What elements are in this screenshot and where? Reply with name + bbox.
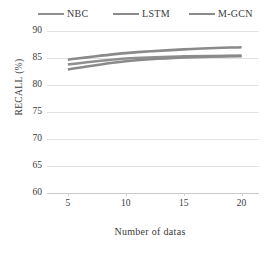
legend-label-mgcn: M-GCN [218, 9, 253, 19]
legend-swatch-nbc [38, 13, 64, 15]
x-axis-line [47, 193, 259, 194]
y-tick-label-70: 70 [16, 134, 42, 144]
legend-label-lstm: LSTM [142, 9, 170, 19]
chart-legend: NBC LSTM M-GCN [0, 4, 272, 24]
legend-swatch-lstm [113, 13, 139, 15]
y-tick-label-90: 90 [16, 26, 42, 36]
x-tick-label-10: 10 [114, 199, 138, 209]
y-tick-label-75: 75 [16, 107, 42, 117]
x-tick-label-5: 5 [56, 199, 80, 209]
x-tick-label-20: 20 [230, 199, 254, 209]
x-tick-mark-20 [242, 193, 243, 196]
y-tick-label-85: 85 [16, 53, 42, 63]
legend-item-nbc: NBC [38, 4, 88, 24]
legend-item-lstm: LSTM [113, 4, 170, 24]
x-tick-mark-10 [126, 193, 127, 196]
y-tick-label-65: 65 [16, 161, 42, 171]
legend-label-nbc: NBC [67, 9, 88, 19]
recall-line-chart: NBC LSTM M-GCN RECALL (%) 60657075808590… [0, 0, 272, 254]
legend-item-mgcn: M-GCN [189, 4, 253, 24]
x-tick-mark-15 [184, 193, 185, 196]
y-tick-label-60: 60 [16, 188, 42, 198]
x-axis-title: Number of datas [50, 226, 250, 237]
legend-swatch-mgcn [189, 13, 215, 15]
series-lines [47, 31, 259, 193]
x-tick-mark-5 [68, 193, 69, 196]
x-tick-label-15: 15 [172, 199, 196, 209]
y-tick-label-80: 80 [16, 80, 42, 90]
